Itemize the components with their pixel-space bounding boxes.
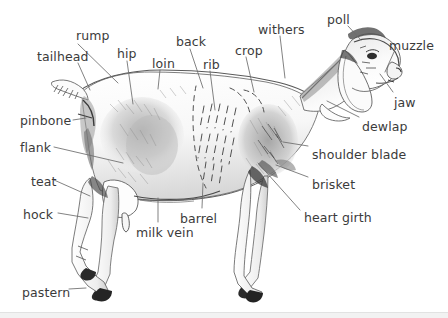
label-poll: poll	[327, 13, 350, 26]
label-heart-girth: heart girth	[304, 211, 372, 224]
label-hock: hock	[23, 208, 53, 221]
label-rib: rib	[203, 58, 220, 71]
leader-line-withers	[280, 36, 285, 78]
label-hip: hip	[117, 47, 137, 60]
label-milk-vein: milk vein	[136, 226, 194, 239]
label-loin: loin	[152, 57, 175, 70]
label-pastern: pastern	[22, 286, 70, 299]
label-muzzle: muzzle	[389, 39, 434, 52]
leader-line-pastern	[69, 288, 86, 289]
label-dewlap: dewlap	[362, 120, 408, 133]
goat-neck-head	[300, 27, 402, 121]
goat-anatomy-diagram: rumptailheadhiploinbackribcropwitherspol…	[0, 0, 448, 318]
label-shoulder-blade: shoulder blade	[312, 148, 406, 161]
label-back: back	[176, 35, 206, 48]
label-withers: withers	[258, 23, 305, 36]
label-teat: teat	[31, 175, 57, 188]
label-jaw: jaw	[394, 96, 416, 109]
label-tailhead: tailhead	[37, 50, 89, 63]
label-brisket: brisket	[312, 178, 355, 191]
label-rump: rump	[76, 29, 110, 42]
label-flank: flank	[20, 141, 51, 154]
label-barrel: barrel	[180, 212, 217, 225]
label-crop: crop	[235, 44, 263, 57]
label-pinbone: pinbone	[20, 114, 71, 127]
bottom-divider	[0, 312, 448, 318]
